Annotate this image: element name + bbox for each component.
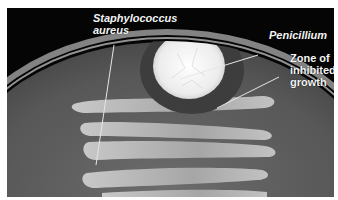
label-zone-line3: growth xyxy=(290,76,334,88)
label-zone-line2: inhibited xyxy=(290,64,334,76)
penicillium-colony xyxy=(153,33,225,99)
label-staph-line1: Staphylococcus xyxy=(93,12,177,24)
petri-dish-photo: Staphylococcus aureus Penicillium Zone o… xyxy=(7,8,334,197)
label-staphylococcus-aureus: Staphylococcus aureus xyxy=(93,12,177,36)
label-penicillium: Penicillium xyxy=(269,29,327,41)
label-staph-line2: aureus xyxy=(93,24,177,36)
label-zone-of-inhibited-growth: Zone of inhibited growth xyxy=(290,52,334,88)
label-zone-line1: Zone of xyxy=(290,52,334,64)
